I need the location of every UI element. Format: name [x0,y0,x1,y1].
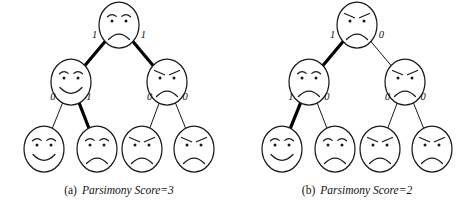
eye-right [411,77,414,80]
node-root-node-sad [99,2,139,48]
node-internal-node-left-sad [289,59,329,105]
face-outline [360,126,400,172]
node-leaf-node-1-happy [262,126,302,172]
eye-left [63,77,66,80]
node-root-node-angry [337,2,377,48]
edge-label-left-leaf2: 0 [324,91,330,102]
tree-edge-root-left [323,42,343,66]
face-outline [315,126,355,172]
caption-a-text: Parsimony Score=3 [82,184,174,196]
edge-label-left-leaf2: 1 [86,91,91,102]
node-leaf-node-4-angry [412,126,452,172]
edge-label-right-leaf4: 0 [182,91,188,102]
panel-b: 101000 (b)Parsimony Score=2 [238,0,476,216]
tree-diagram-b: 101000 [238,0,476,182]
eye-right [173,77,176,80]
eye-left [159,77,162,80]
node-internal-node-right-angry [147,59,187,105]
eye-left [327,144,330,147]
eye-left [134,144,137,147]
eye-right [125,20,128,23]
eye-right [200,144,203,147]
edge-label-right-leaf3: 0 [147,91,153,102]
eye-left [372,144,375,147]
caption-b-tag: (b) [302,184,315,196]
face-outline [77,126,117,172]
eye-right [341,144,344,147]
face-outline [122,126,162,172]
eye-left [36,144,39,147]
caption-a-tag: (a) [64,184,77,196]
node-leaf-node-4-angry [174,126,214,172]
face-outline [337,2,377,48]
eye-left [274,144,277,147]
node-internal-node-right-angry [385,59,425,105]
edge-label-left-leaf1: 0 [50,91,56,102]
tree-edge-left-leaf1 [290,103,300,128]
eye-right [315,77,318,80]
tree-edge-left-leaf1 [52,103,62,128]
face-outline [51,59,91,105]
tree-edge-root-left [85,42,105,66]
tree-edge-right-leaf3 [150,103,159,128]
eye-right [50,144,53,147]
node-leaf-node-1-happy [24,126,64,172]
eye-right [288,144,291,147]
tree-diagram-a: 110100 [0,0,238,182]
face-outline [174,126,214,172]
eye-left [111,20,114,23]
tree-edge-left-leaf2 [79,103,89,128]
eye-right [103,144,106,147]
tree-edge-left-leaf2 [317,103,327,128]
face-outline [262,126,302,172]
node-leaf-node-2-sad [77,126,117,172]
node-internal-node-left-happy [51,59,91,105]
panel-a: 110100 (a)Parsimony Score=3 [0,0,238,216]
face-outline [99,2,139,48]
node-leaf-node-2-sad [315,126,355,172]
tree-edge-right-leaf4 [413,103,423,128]
face-outline [412,126,452,172]
eye-left [349,20,352,23]
eye-right [77,77,80,80]
eye-left [89,144,92,147]
face-outline [289,59,329,105]
caption-a: (a)Parsimony Score=3 [0,184,238,196]
eye-right [438,144,441,147]
face-outline [24,126,64,172]
caption-b: (b)Parsimony Score=2 [238,184,476,196]
eye-right [363,20,366,23]
tree-edge-right-leaf3 [388,103,397,128]
edge-label-right-leaf3: 0 [385,91,391,102]
tree-edge-root-right [133,42,153,66]
edge-label-root-left: 1 [92,29,97,40]
eye-left [424,144,427,147]
eye-left [186,144,189,147]
edge-label-root-left: 1 [330,29,335,40]
node-leaf-node-3-angry [122,126,162,172]
edge-label-root-right: 0 [379,29,385,40]
face-outline [385,59,425,105]
edge-label-left-leaf1: 1 [288,91,293,102]
eye-left [397,77,400,80]
edge-label-right-leaf4: 0 [420,91,426,102]
caption-b-text: Parsimony Score=2 [320,184,412,196]
edge-label-root-right: 1 [141,29,146,40]
eye-right [386,144,389,147]
tree-edge-right-leaf4 [175,103,185,128]
parsimony-figure: 110100 (a)Parsimony Score=3 101000 (b)Pa… [0,0,476,216]
eye-right [148,144,151,147]
eye-left [301,77,304,80]
node-leaf-node-3-angry [360,126,400,172]
face-outline [147,59,187,105]
tree-edge-root-right [371,42,391,66]
